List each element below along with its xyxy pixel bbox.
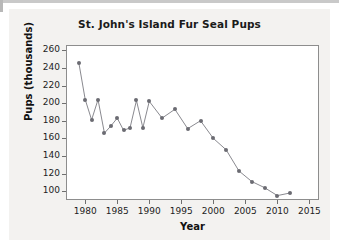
- data-point-marker: [83, 98, 87, 102]
- series-line-path: [66, 45, 319, 200]
- x-tick-label: 2010: [260, 206, 294, 216]
- x-tick-mark: [277, 200, 278, 204]
- x-tick-mark: [309, 200, 310, 204]
- scan-edge-left: [0, 0, 3, 12]
- data-point-marker: [237, 169, 241, 173]
- y-tick-label: 220: [30, 80, 60, 90]
- y-axis-label: Pups (thousands): [23, 0, 34, 152]
- x-tick-label: 2005: [228, 206, 262, 216]
- plot-area: [66, 45, 319, 200]
- data-point-marker: [96, 98, 100, 102]
- data-point-marker: [77, 61, 81, 65]
- x-tick-label: 1985: [100, 206, 134, 216]
- data-point-marker: [250, 180, 254, 184]
- y-tick-label: 160: [30, 132, 60, 142]
- x-axis-label: Year: [66, 221, 319, 232]
- data-point-marker: [186, 127, 190, 131]
- x-tick-label: 2000: [196, 206, 230, 216]
- x-tick-mark: [85, 200, 86, 204]
- x-tick-mark: [181, 200, 182, 204]
- page-canvas: St. John's Island Fur Seal Pups Pups (th…: [0, 0, 339, 249]
- chart-figure: St. John's Island Fur Seal Pups Pups (th…: [9, 9, 330, 240]
- y-tick-label: 120: [30, 168, 60, 178]
- x-tick-label: 1995: [164, 206, 198, 216]
- x-tick-label: 2015: [292, 206, 326, 216]
- data-point-marker: [141, 126, 145, 130]
- data-point-marker: [109, 124, 113, 128]
- x-tick-mark: [245, 200, 246, 204]
- data-point-marker: [90, 118, 94, 122]
- y-tick-label: 140: [30, 150, 60, 160]
- chart-title: St. John's Island Fur Seal Pups: [9, 18, 330, 30]
- x-tick-mark: [117, 200, 118, 204]
- y-tick-label: 260: [30, 44, 60, 54]
- y-tick-label: 240: [30, 62, 60, 72]
- data-point-marker: [224, 148, 228, 152]
- data-point-marker: [263, 186, 267, 190]
- data-point-marker: [199, 119, 203, 123]
- y-tick-label: 180: [30, 115, 60, 125]
- y-tick-label: 200: [30, 97, 60, 107]
- scan-edge-top: [0, 0, 339, 3]
- x-tick-label: 1980: [68, 206, 102, 216]
- y-tick-label: 100: [30, 185, 60, 195]
- x-tick-label: 1990: [132, 206, 166, 216]
- x-tick-mark: [149, 200, 150, 204]
- data-point-marker: [128, 126, 132, 130]
- x-tick-mark: [213, 200, 214, 204]
